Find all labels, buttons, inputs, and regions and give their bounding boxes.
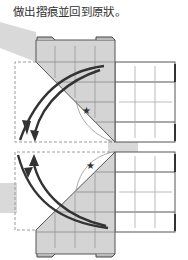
top-shaded-flap (36, 37, 115, 142)
top-star-icon: ★ (82, 105, 91, 116)
origami-diagram: ★ ★ (0, 0, 188, 260)
top-right-grid (115, 62, 175, 142)
bottom-step: ★ (15, 152, 175, 257)
bottom-highlight-band (0, 183, 17, 213)
bottom-star-icon: ★ (86, 160, 95, 171)
bottom-right-grid (115, 152, 175, 232)
top-step: ★ (15, 37, 175, 142)
top-highlight-band (0, 22, 36, 62)
